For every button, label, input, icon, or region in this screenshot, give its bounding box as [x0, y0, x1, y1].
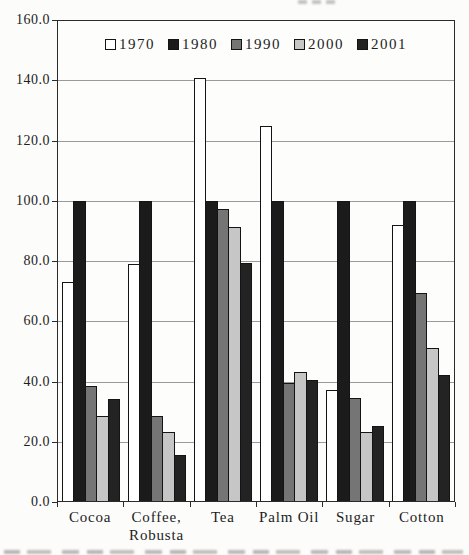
bar-chart: 0.020.040.060.080.0100.0120.0140.0160.0 … [0, 0, 469, 555]
x-tick-mark-1 [123, 502, 124, 507]
legend-label-1990: 1990 [245, 36, 281, 53]
x-label-palm-oil: Palm Oil [256, 508, 322, 544]
bar-2001-coffee-robusta [174, 455, 186, 502]
legend-swatch-1990 [231, 39, 242, 50]
legend-item-1990: 1990 [231, 36, 281, 53]
x-tick-mark-6 [455, 502, 456, 507]
scan-artifact-bottom [4, 550, 463, 554]
legend-item-1970: 1970 [105, 36, 155, 53]
legend-swatch-1970 [105, 39, 116, 50]
y-tick-label-140.0: 140.0 [0, 72, 50, 88]
y-tick-label-160.0: 160.0 [0, 12, 50, 28]
y-tick-label-120.0: 120.0 [0, 133, 50, 149]
legend-swatch-2000 [294, 39, 305, 50]
y-tick-label-0.0: 0.0 [0, 494, 50, 510]
x-tick-mark-3 [256, 502, 257, 507]
x-label-sugar: Sugar [322, 508, 388, 544]
bar-group-cocoa [58, 21, 124, 501]
legend-item-2000: 2000 [294, 36, 344, 53]
legend-label-1980: 1980 [182, 36, 218, 53]
y-tick-label-80.0: 80.0 [0, 253, 50, 269]
legend-item-2001: 2001 [357, 36, 407, 53]
bar-group-cotton [388, 21, 454, 501]
y-tick-label-20.0: 20.0 [0, 434, 50, 450]
x-label-cotton: Cotton [389, 508, 455, 544]
legend-label-2001: 2001 [371, 36, 407, 53]
bar-2001-cotton [438, 375, 450, 501]
plot-area: 19701980199020002001 [57, 20, 455, 502]
y-tick-label-40.0: 40.0 [0, 374, 50, 390]
x-tick-mark-0 [57, 502, 58, 507]
y-tick-label-100.0: 100.0 [0, 193, 50, 209]
bar-2001-palm-oil [306, 380, 318, 502]
legend-swatch-2001 [357, 39, 368, 50]
legend: 19701980199020002001 [105, 36, 407, 53]
x-tick-mark-2 [190, 502, 191, 507]
bar-2001-cocoa [108, 399, 120, 501]
x-tick-mark-4 [322, 502, 323, 507]
bar-group-tea [190, 21, 256, 501]
bar-2001-tea [240, 263, 252, 502]
legend-label-2000: 2000 [308, 36, 344, 53]
legend-item-1980: 1980 [168, 36, 218, 53]
x-label-coffee-robusta: Coffee, Robusta [123, 508, 189, 544]
scan-artifact-top [298, 0, 340, 4]
bar-2001-sugar [372, 426, 384, 501]
bar-group-coffee-robusta [124, 21, 190, 501]
bar-group-sugar [322, 21, 388, 501]
x-axis-labels: CocoaCoffee, RobustaTeaPalm OilSugarCott… [57, 508, 455, 544]
y-tick-label-60.0: 60.0 [0, 313, 50, 329]
legend-label-1970: 1970 [119, 36, 155, 53]
x-label-cocoa: Cocoa [57, 508, 123, 544]
bar-group-palm-oil [256, 21, 322, 501]
x-label-tea: Tea [190, 508, 256, 544]
legend-swatch-1980 [168, 39, 179, 50]
x-tick-mark-5 [389, 502, 390, 507]
